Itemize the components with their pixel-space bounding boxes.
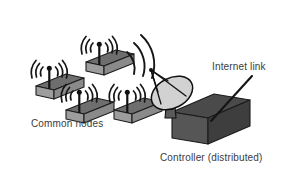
label-common-nodes: Common nodes [31,118,103,129]
network-diagram [0,0,289,173]
diagram-canvas: Common nodes Controller (distributed) In… [0,0,289,173]
label-internet-link: Internet link [212,61,266,72]
label-controller: Controller (distributed) [160,152,263,163]
